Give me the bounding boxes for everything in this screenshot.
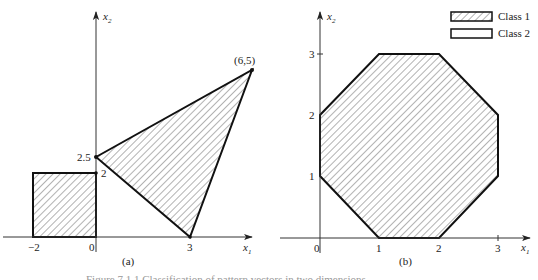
legend: Class 1 Class 2 <box>451 10 530 39</box>
panel-a: x2 x1 (6,5) 2.5 2 −2 0 3 (a) <box>3 10 255 268</box>
panel-label-b: (b) <box>399 255 412 268</box>
class1-octagon-region <box>320 54 498 238</box>
panel-label-a: (a) <box>122 255 135 268</box>
legend-label-class2: Class 2 <box>498 27 530 39</box>
x-tick-0-b: 0 <box>314 242 320 254</box>
x1-axis-label-a: x1 <box>242 241 251 256</box>
point-6-5 <box>250 68 254 72</box>
y-tick-2-b: 2 <box>309 109 315 121</box>
point-label-6-5: (6,5) <box>234 54 255 67</box>
point-0-2.5 <box>94 155 98 159</box>
x2-axis-label-b: x2 <box>326 10 336 25</box>
x-tick-1-b: 1 <box>376 242 382 254</box>
x-tick-3-b: 3 <box>495 242 501 254</box>
class1-triangle-region <box>96 70 252 237</box>
x-tick-3-a: 3 <box>187 241 193 253</box>
y-tick-2.5: 2.5 <box>77 151 91 163</box>
y-tick-1-b: 1 <box>309 170 315 182</box>
y-tick-3-b: 3 <box>309 48 315 60</box>
legend-label-class1: Class 1 <box>498 10 530 22</box>
y-tick-2: 2 <box>101 167 107 179</box>
class1-square-region <box>33 173 96 237</box>
point-3-0 <box>188 235 192 239</box>
panel-b: x2 x1 1 2 3 0 1 2 3 (b) <box>280 10 530 268</box>
x2-axis-label-a: x2 <box>102 10 112 25</box>
x-tick-2-b: 2 <box>436 242 442 254</box>
figure-caption: Figure 7.1.1 Classification of pattern v… <box>86 272 366 280</box>
x1-axis-label-b: x1 <box>520 241 529 256</box>
legend-swatch-class2 <box>451 29 492 38</box>
figure-canvas: x2 x1 (6,5) 2.5 2 −2 0 3 (a) x2 x1 1 2 3… <box>0 0 538 280</box>
x-tick-neg2: −2 <box>28 241 40 253</box>
point-0-2 <box>94 171 98 175</box>
legend-swatch-class1 <box>451 12 492 21</box>
x-tick-0-a: 0 <box>89 241 95 253</box>
